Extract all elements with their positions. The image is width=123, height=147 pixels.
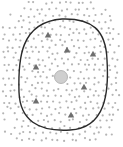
dot — [57, 65, 59, 67]
dot — [85, 46, 87, 48]
dot — [19, 33, 21, 35]
dot — [8, 40, 10, 42]
dot — [21, 126, 23, 128]
dot — [58, 112, 60, 114]
dot — [118, 45, 120, 47]
dot — [13, 56, 15, 58]
dot — [14, 27, 16, 29]
dot — [85, 33, 87, 35]
dot — [75, 9, 77, 11]
dot — [18, 46, 20, 48]
dot — [35, 46, 37, 48]
dot — [45, 3, 47, 5]
dot — [112, 94, 114, 96]
dot — [94, 77, 96, 79]
dot — [4, 84, 6, 86]
dot — [78, 63, 80, 65]
dot — [72, 139, 74, 141]
dot — [46, 90, 48, 92]
dot — [51, 63, 53, 65]
dot — [86, 69, 88, 71]
dot — [25, 47, 27, 49]
dot — [71, 63, 73, 65]
dot — [3, 118, 5, 120]
dot — [70, 1, 72, 3]
dot — [48, 8, 50, 10]
dot — [2, 51, 4, 53]
dot — [58, 14, 60, 16]
dot — [59, 101, 61, 103]
dot — [41, 139, 43, 141]
dot — [75, 88, 77, 90]
dot — [41, 81, 43, 83]
dot — [12, 34, 14, 36]
dot — [32, 1, 34, 3]
dot — [33, 127, 35, 129]
dot — [54, 58, 56, 60]
dot — [104, 21, 106, 23]
dot — [42, 46, 44, 48]
dot — [112, 106, 114, 108]
dot — [107, 39, 109, 41]
dot — [90, 101, 92, 103]
dot — [9, 14, 11, 16]
dot — [102, 114, 104, 116]
dot — [54, 119, 56, 121]
dot — [18, 20, 20, 22]
dot — [101, 13, 103, 15]
dot — [71, 39, 73, 41]
dot — [28, 138, 30, 140]
dot — [86, 119, 88, 121]
dot — [73, 56, 75, 58]
dot — [14, 103, 16, 105]
dot — [74, 96, 76, 98]
dot — [28, 1, 30, 3]
dot — [73, 108, 75, 110]
dot — [112, 114, 114, 116]
dot — [22, 120, 24, 122]
dot — [55, 132, 57, 134]
dot — [21, 26, 23, 28]
dot — [87, 96, 89, 98]
dot — [108, 126, 110, 128]
dot — [99, 119, 101, 121]
dot — [52, 75, 54, 77]
dot — [26, 51, 28, 53]
dot — [89, 126, 91, 128]
dot — [30, 8, 32, 10]
dot — [13, 77, 15, 79]
dot — [59, 106, 61, 108]
dot — [98, 81, 100, 83]
dot — [16, 137, 18, 139]
dot — [109, 69, 111, 71]
dot — [20, 15, 22, 17]
dot — [112, 38, 114, 40]
dot — [2, 38, 4, 40]
dot — [57, 88, 59, 90]
dot — [23, 96, 25, 98]
dot — [79, 82, 81, 84]
dot — [36, 9, 38, 11]
dot — [109, 32, 111, 34]
dot — [106, 119, 108, 121]
diagram-canvas — [0, 0, 123, 147]
dot — [37, 82, 39, 84]
dot — [116, 59, 118, 61]
dot — [31, 70, 33, 72]
dot — [5, 95, 7, 97]
dot — [27, 125, 29, 127]
dot — [75, 139, 77, 141]
dot — [14, 127, 16, 129]
dot — [56, 52, 58, 54]
dot — [46, 50, 48, 52]
dot — [72, 32, 74, 34]
dot — [31, 94, 33, 96]
dot — [55, 44, 57, 46]
dot — [78, 9, 80, 11]
dot — [40, 26, 42, 28]
dot — [92, 31, 94, 33]
dot — [94, 14, 96, 16]
dot — [104, 70, 106, 72]
dot — [49, 69, 51, 71]
dot — [79, 121, 81, 123]
